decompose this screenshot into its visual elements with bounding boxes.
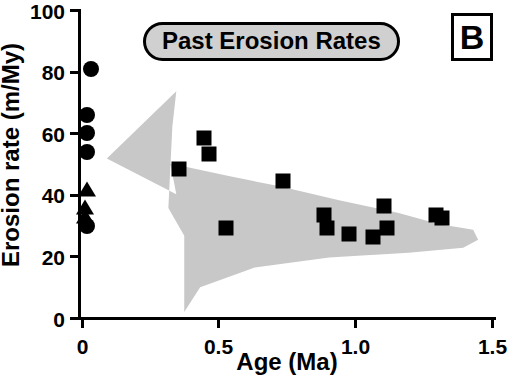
x-tick-1-5: 1.5 (491, 317, 494, 328)
data-point-square (196, 131, 211, 146)
x-tick-1-0: 1.0 (354, 317, 357, 328)
data-point-circle (79, 125, 95, 141)
y-tick-100: 100 (70, 9, 81, 12)
data-point-square (434, 211, 449, 226)
y-tick-20: 20 (70, 255, 81, 258)
x-tick-0: 0 (81, 317, 84, 328)
data-point-square (276, 174, 291, 189)
data-point-square (172, 162, 187, 177)
y-tick-0: 0 (70, 317, 81, 320)
x-axis-title: Age (Ma) (78, 348, 496, 376)
data-point-triangle (78, 181, 96, 196)
panel-letter-badge: B (451, 13, 493, 61)
chart-title-pill: Past Erosion Rates (143, 22, 400, 61)
panel-letter: B (460, 20, 485, 54)
data-point-triangle (76, 209, 94, 224)
chart-title: Past Erosion Rates (162, 29, 381, 53)
data-point-circle (83, 61, 99, 77)
x-tick-0-5: 0.5 (217, 317, 220, 328)
y-tick-80: 80 (70, 71, 81, 74)
erosion-rate-scatter-figure: Erosion rate (m/My) 0 20 40 60 80 100 0 … (0, 0, 516, 380)
data-point-circle (79, 144, 95, 160)
data-point-square (377, 199, 392, 214)
data-point-square (380, 220, 395, 235)
data-point-square (202, 146, 217, 161)
data-point-square (341, 226, 356, 241)
data-point-square (319, 220, 334, 235)
data-point-square (218, 220, 233, 235)
plot-area: 0 20 40 60 80 100 0 0.5 1.0 1.5 (78, 10, 496, 320)
y-axis-title: Erosion rate (m/My) (0, 0, 24, 310)
data-point-circle (79, 107, 95, 123)
